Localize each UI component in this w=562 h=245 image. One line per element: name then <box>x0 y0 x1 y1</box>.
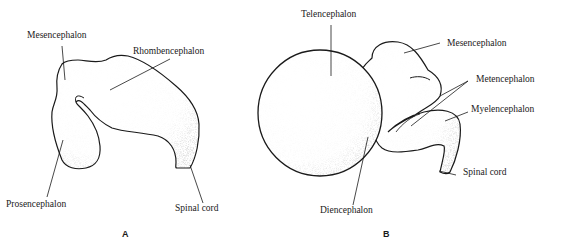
label-b-diencephalon: Diencephalon <box>320 206 373 216</box>
panel-a-neural-tube <box>52 55 199 169</box>
label-b-telencephalon: Telencephalon <box>301 10 356 20</box>
label-b-metencephalon: Metencephalon <box>476 75 535 85</box>
label-b-myelencephalon: Myelencephalon <box>471 105 534 115</box>
label-b-spinal-cord: Spinal cord <box>463 168 507 178</box>
panel-b-brain <box>258 42 460 176</box>
panel-b-letter: B <box>383 230 390 239</box>
panel-a-letter: A <box>122 230 129 239</box>
label-b-mesencephalon: Mesencephalon <box>447 39 507 49</box>
label-a-spinal-cord: Spinal cord <box>175 204 219 214</box>
label-a-rhombencephalon: Rhombencephalon <box>133 47 204 57</box>
label-a-prosencephalon: Prosencephalon <box>6 200 66 210</box>
label-a-mesencephalon: Mesencephalon <box>27 31 87 41</box>
